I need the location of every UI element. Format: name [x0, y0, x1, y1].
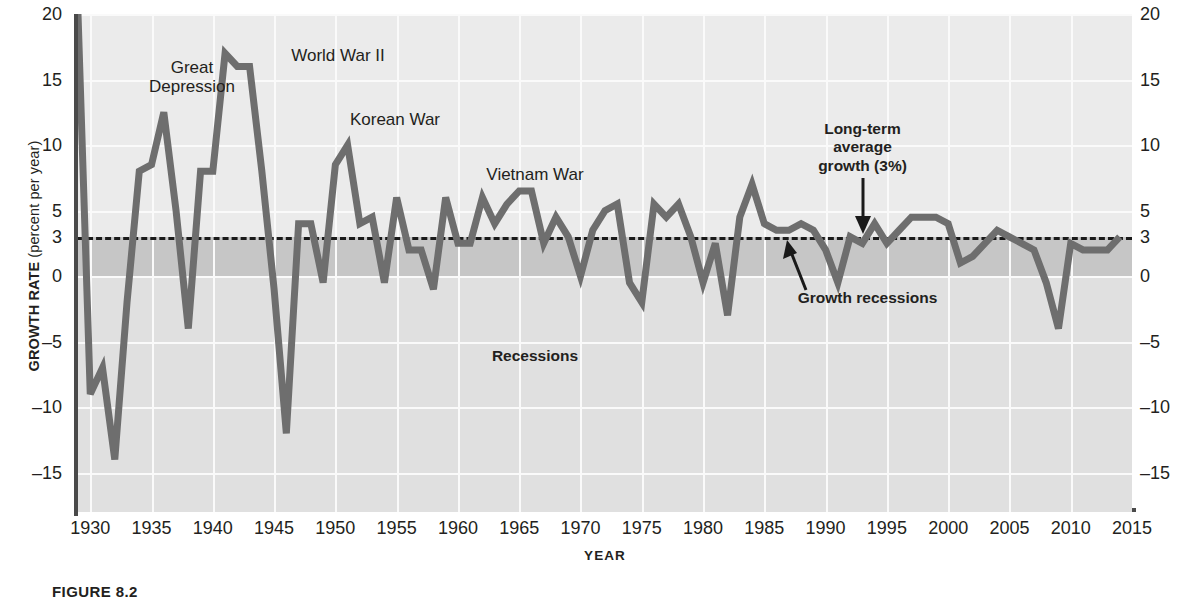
x-tick-label: 1980: [668, 519, 738, 537]
annotation-long-term-average-growth: Long-term average growth (3%): [775, 120, 950, 175]
x-tick-label: 2000: [913, 519, 983, 537]
annotation-world-war-ii: World War II: [243, 46, 433, 65]
x-tick-label: 1955: [362, 519, 432, 537]
growth-recessions-arrow-icon: [780, 236, 820, 292]
y-tick-label-left: 5: [6, 202, 62, 220]
y-tick-label-right: –15: [1140, 464, 1193, 482]
x-tick-label: 2015: [1097, 519, 1167, 537]
annotation-recessions: Recessions: [455, 347, 615, 365]
y-tick-label-right: 10: [1140, 136, 1193, 154]
y-tick-label-left: 15: [6, 71, 62, 89]
x-tick-label: 1990: [791, 519, 861, 537]
y-tick-label-right: 0: [1140, 267, 1193, 285]
x-tick-label: 1935: [117, 519, 187, 537]
y-tick-label-left: 10: [6, 136, 62, 154]
x-tick-label: 1945: [239, 519, 309, 537]
y-tick-label-left: 3: [6, 228, 62, 246]
x-tick-label: 2010: [1036, 519, 1106, 537]
figure-caption: FIGURE 8.2: [52, 583, 138, 600]
y-tick-label-right: 15: [1140, 71, 1193, 89]
x-tick-label: 1985: [729, 519, 799, 537]
x-tick-label: 1965: [484, 519, 554, 537]
x-tick-label: 1940: [178, 519, 248, 537]
x-tick-label: 1960: [423, 519, 493, 537]
y-tick-label-right: 5: [1140, 202, 1193, 220]
x-tick-label: 2005: [974, 519, 1044, 537]
y-tick-label-right: 3: [1140, 228, 1193, 246]
y-tick-label-right: –10: [1140, 398, 1193, 416]
y-tick-label-left: –15: [6, 464, 62, 482]
x-tick-label: 1950: [300, 519, 370, 537]
x-tick-label: 1970: [545, 519, 615, 537]
y-tick-label-left: –5: [6, 333, 62, 351]
annotation-korean-war: Korean War: [310, 110, 480, 129]
x-tick-label: 1930: [55, 519, 125, 537]
x-tick-label: 1995: [852, 519, 922, 537]
x-axis-title: YEAR: [78, 548, 1132, 563]
y-tick-label-left: 0: [6, 267, 62, 285]
y-tick-label-right: 20: [1140, 5, 1193, 23]
y-tick-label-left: –10: [6, 398, 62, 416]
x-tick-label: 1975: [607, 519, 677, 537]
long-term-average-arrow-icon: [845, 176, 881, 238]
y-tick-label-left: 20: [6, 5, 62, 23]
annotation-vietnam-war: Vietnam War: [445, 165, 625, 184]
y-tick-label-right: –5: [1140, 333, 1193, 351]
